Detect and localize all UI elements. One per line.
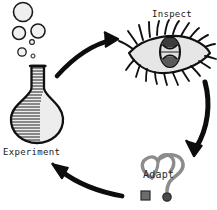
inspect-label: Inspect	[152, 9, 192, 19]
flask-bubbles	[13, 3, 46, 59]
cycle-diagram: Experiment Inspect	[0, 0, 217, 210]
flask-icon	[11, 66, 64, 143]
arrow-inspect-to-adapt	[186, 82, 208, 156]
experiment-label: Experiment	[3, 147, 60, 157]
eye-icon	[119, 20, 216, 85]
arrow-experiment-to-inspect	[57, 32, 118, 76]
arrow-adapt-to-experiment	[52, 163, 122, 196]
eye-iris	[160, 37, 180, 68]
adapt-label: Adapt	[143, 169, 174, 180]
question-mark-dot	[163, 193, 171, 201]
diagram-canvas: Experiment Inspect	[0, 0, 217, 210]
heart-question-mark-icon: Adapt	[141, 155, 183, 201]
adapt-block	[141, 191, 150, 200]
